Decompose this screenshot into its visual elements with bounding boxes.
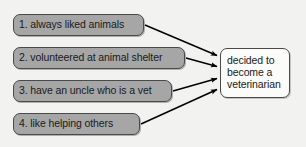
arrow-cause-3-to-effect [173,79,217,92]
cause-node-2[interactable]: 2. volunteered at animal shelter [13,47,185,69]
cause-node-1[interactable]: 1. always liked animals [13,14,144,36]
arrow-cause-2-to-effect [186,58,217,67]
cause-node-1-label: 1. always liked animals [19,19,124,31]
cause-node-2-label: 2. volunteered at animal shelter [19,52,162,64]
cause-effect-diagram: 1. always liked animals 2. volunteered a… [0,0,306,147]
cause-node-3[interactable]: 3. have an uncle who is a vet [13,80,172,102]
effect-node-label-line-3: veterinarian [227,79,281,91]
effect-node[interactable]: decided to become a veterinarian [220,48,290,98]
cause-node-3-label: 3. have an uncle who is a vet [19,85,152,97]
cause-node-4-label: 4. like helping others [19,118,113,130]
effect-node-label: decided to become a veterinarian [227,55,281,90]
cause-node-4[interactable]: 4. like helping others [13,113,140,135]
